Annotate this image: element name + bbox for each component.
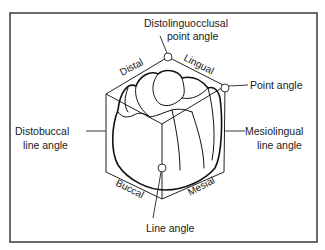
point-marker [164,53,172,61]
callout-text-line1: Distolinguocclusal [144,17,228,29]
point-marker [158,164,166,172]
leader-line [229,85,248,86]
cusp-ridge-3 [153,74,182,106]
tooth-crown [113,71,222,190]
groove-4 [208,88,214,160]
groove-3 [192,112,204,168]
cusp-ridge-5 [182,88,208,99]
point-marker [221,84,229,92]
callout-text-line1: Distobuccal [15,125,69,137]
callout-line-angle: Line angle [146,164,195,234]
callout-distobuccal: Distobuccal line angle [15,125,106,151]
face-label-mesial: Mesial [186,174,217,197]
face-label-distal: Distal [118,56,145,77]
groove-1 [125,88,128,112]
cusp-ridge-2 [136,86,150,117]
callout-text-line2: line angle [257,139,302,151]
groove-2 [172,110,180,170]
cusp-ridge-6 [150,109,192,117]
callout-text-line1: Line angle [146,222,195,234]
cusp-ridge-4 [182,78,184,98]
callout-text-line1: Point angle [250,79,303,91]
callout-point-angle: Point angle [221,79,303,92]
callout-text-line2: line angle [23,139,68,151]
face-label-buccal: Buccal [114,177,146,200]
callout-mesiolingual: Mesiolingual line angle [225,125,303,151]
tooth-cube-diagram: Distal Lingual Buccal Mesial Distolinguo… [0,0,325,250]
leader-line [160,36,167,53]
callout-text-line2: point angle [167,30,219,42]
callout-text-line1: Mesiolingual [245,125,303,137]
tooth-outline [113,71,222,190]
